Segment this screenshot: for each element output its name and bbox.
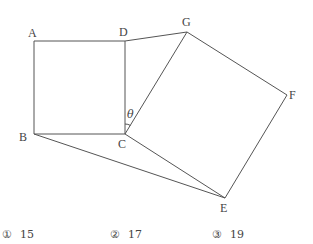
label-e: E (220, 201, 227, 215)
choice-1-value: 15 (20, 228, 34, 241)
choice-1-marker: ① (2, 228, 12, 241)
choice-3[interactable]: ③19 (212, 228, 244, 241)
label-f: F (289, 88, 296, 102)
label-a: A (28, 26, 37, 40)
geometry-diagram: A D G F B C E θ (0, 0, 313, 244)
label-g: G (182, 15, 191, 29)
segment-dg (125, 32, 187, 41)
segment-be (34, 134, 225, 198)
label-b: B (19, 130, 27, 144)
angle-arc-theta (125, 124, 131, 126)
choice-3-marker: ③ (212, 228, 222, 241)
choice-3-value: 19 (230, 228, 244, 241)
label-c: C (118, 137, 126, 151)
choice-2[interactable]: ②17 (110, 228, 142, 241)
square-abcd (34, 41, 125, 134)
label-d: D (119, 25, 128, 39)
choice-2-value: 17 (128, 228, 142, 241)
choice-2-marker: ② (110, 228, 120, 241)
label-theta: θ (127, 108, 134, 121)
choice-1[interactable]: ①15 (2, 228, 34, 241)
